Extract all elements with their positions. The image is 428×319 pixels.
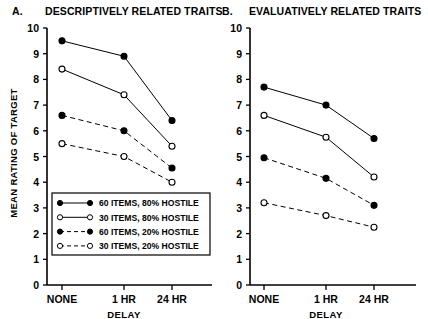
data-point-filled-circle (121, 128, 127, 134)
data-point-open-circle (261, 112, 267, 118)
y-tick-label: 4 (33, 176, 39, 188)
data-point-filled-circle (169, 165, 175, 171)
x-tick-label: 24 HR (157, 293, 187, 305)
series-line-3 (264, 158, 374, 206)
y-tick-label: 6 (33, 125, 39, 137)
data-point-open-circle (323, 213, 329, 219)
panel-a: A. DESCRIPTIVELY RELATED TRAITS MEAN RAT… (0, 0, 214, 319)
legend-label: 60 ITEMS, 80% HOSTILE (99, 198, 199, 208)
x-tick-label: 1 HR (314, 293, 338, 305)
x-axis-label: DELAY (107, 309, 141, 319)
legend-marker-open-circle (87, 215, 92, 220)
y-tick-label: 10 (230, 22, 242, 34)
y-tick-label: 0 (236, 279, 242, 291)
legend-label: 30 ITEMS, 20% HOSTILE (99, 241, 199, 251)
legend-marker-filled-circle (57, 200, 62, 205)
legend-marker-open-circle (57, 243, 62, 248)
x-tick-label: NONE (249, 293, 279, 305)
y-tick-label: 10 (27, 22, 39, 34)
y-tick-label: 2 (236, 228, 242, 240)
figure-two-panel-line-chart: A. DESCRIPTIVELY RELATED TRAITS MEAN RAT… (0, 0, 428, 319)
legend-label: 30 ITEMS, 80% HOSTILE (99, 213, 199, 223)
y-tick-label: 7 (236, 99, 242, 111)
data-point-open-circle (371, 224, 377, 230)
y-tick-label: 1 (236, 253, 242, 265)
y-tick-label: 3 (236, 202, 242, 214)
y-tick-label: 8 (236, 73, 242, 85)
legend-marker-open-circle (57, 215, 62, 220)
series-line-3 (62, 115, 172, 168)
data-point-filled-circle (323, 175, 329, 181)
y-tick-label: 3 (33, 202, 39, 214)
data-point-open-circle (59, 141, 65, 147)
y-tick-label: 4 (236, 176, 242, 188)
series-line-2 (264, 115, 374, 177)
data-point-filled-circle (261, 155, 267, 161)
series-line-4 (62, 144, 172, 183)
legend-marker-filled-circle (87, 229, 92, 234)
y-tick-label: 5 (236, 151, 242, 163)
x-tick-label: NONE (47, 293, 77, 305)
panel-a-plot: 109876543210NONE1 HR24 HRDELAY60 ITEMS, … (0, 0, 214, 319)
y-tick-label: 9 (236, 48, 242, 60)
data-point-filled-circle (59, 38, 65, 44)
series-line-2 (62, 69, 172, 146)
data-point-filled-circle (261, 84, 267, 90)
data-point-filled-circle (371, 202, 377, 208)
y-tick-label: 1 (33, 253, 39, 265)
x-axis-label: DELAY (309, 309, 343, 319)
y-tick-label: 6 (236, 125, 242, 137)
data-point-open-circle (121, 154, 127, 160)
y-tick-label: 5 (33, 151, 39, 163)
data-point-open-circle (169, 143, 175, 149)
legend-label: 60 ITEMS, 20% HOSTILE (99, 227, 199, 237)
data-point-filled-circle (59, 112, 65, 118)
series-line-1 (264, 87, 374, 138)
y-tick-label: 9 (33, 48, 39, 60)
legend-marker-filled-circle (57, 229, 62, 234)
legend-marker-filled-circle (87, 200, 92, 205)
y-tick-label: 7 (33, 99, 39, 111)
series-line-4 (264, 203, 374, 227)
data-point-filled-circle (121, 53, 127, 59)
x-tick-label: 1 HR (112, 293, 136, 305)
data-point-filled-circle (169, 118, 175, 124)
data-point-open-circle (261, 200, 267, 206)
y-tick-label: 8 (33, 73, 39, 85)
panel-b-plot: 109876543210NONE1 HR24 HRDELAY (214, 0, 428, 319)
x-tick-label: 24 HR (359, 293, 389, 305)
series-line-1 (62, 41, 172, 121)
data-point-filled-circle (371, 136, 377, 142)
y-tick-label: 2 (33, 228, 39, 240)
data-point-open-circle (169, 179, 175, 185)
data-point-filled-circle (323, 102, 329, 108)
legend-marker-open-circle (87, 243, 92, 248)
data-point-open-circle (59, 66, 65, 72)
panel-b: B. EVALUATIVELY RELATED TRAITS 109876543… (214, 0, 428, 319)
y-tick-label: 0 (33, 279, 39, 291)
data-point-open-circle (323, 134, 329, 140)
data-point-open-circle (371, 174, 377, 180)
data-point-open-circle (121, 92, 127, 98)
